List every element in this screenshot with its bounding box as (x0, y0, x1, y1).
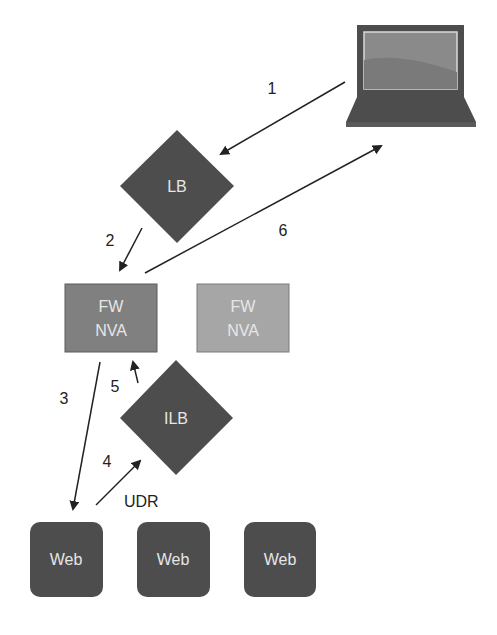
ilb-label: ILB (164, 410, 188, 427)
web-server-3: Web (244, 522, 316, 597)
fw1-label-line2: NVA (95, 322, 127, 339)
load-balancer-node: LB (120, 130, 234, 243)
network-flow-diagram: LB FW NVA FW NVA ILB Web Web Web 1 (0, 0, 497, 635)
arrow-step-1 (221, 82, 345, 154)
fw2-label-line1: FW (231, 298, 257, 315)
laptop-icon (346, 25, 476, 127)
firewall-nva-active: FW NVA (65, 284, 157, 352)
web3-label: Web (264, 551, 297, 568)
step-label-5: 5 (111, 378, 120, 395)
web-server-1: Web (30, 522, 103, 597)
step-label-2: 2 (106, 232, 115, 249)
web2-label: Web (157, 551, 190, 568)
step-label-3: 3 (60, 390, 69, 407)
arrow-step-2 (120, 228, 142, 270)
udr-label: UDR (124, 493, 159, 510)
step-label-4: 4 (103, 453, 112, 470)
firewall-nva-standby: FW NVA (197, 284, 289, 352)
web1-label: Web (50, 551, 83, 568)
step-label-1: 1 (268, 80, 277, 97)
lb-label: LB (167, 178, 187, 195)
fw2-label-line2: NVA (227, 322, 259, 339)
arrow-step-3 (73, 362, 100, 509)
fw1-label-line1: FW (99, 298, 125, 315)
arrow-step-5 (133, 362, 138, 383)
step-label-6: 6 (279, 222, 288, 239)
web-server-2: Web (137, 522, 210, 597)
